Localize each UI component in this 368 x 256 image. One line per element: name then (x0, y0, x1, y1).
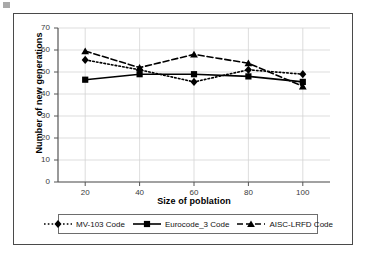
chart-figure: 706050403020100 20406080100 Number of ne… (0, 0, 368, 256)
square-marker (245, 73, 251, 79)
legend-label: Eurocode_3 Code (165, 220, 230, 229)
square-marker (144, 221, 150, 227)
chart-legend: MV-103 CodeEurocode_3 CodeAISC-LRFD Code (58, 214, 318, 234)
diamond-marker (55, 220, 62, 228)
x-axis-title: Size of poblation (58, 196, 330, 206)
legend-label: MV-103 Code (76, 220, 125, 229)
square-marker (137, 71, 143, 77)
legend-swatch (236, 219, 266, 229)
y-tick-label: 0 (34, 177, 50, 186)
square-marker (82, 77, 88, 83)
chart-plot-region: 706050403020100 20406080100 Number of ne… (0, 0, 368, 256)
legend-item: Eurocode_3 Code (132, 219, 230, 229)
legend-label: AISC-LRFD Code (269, 220, 333, 229)
legend-item: MV-103 Code (43, 219, 125, 229)
legend-item: AISC-LRFD Code (236, 219, 333, 229)
legend-swatch (43, 219, 73, 229)
square-marker (191, 71, 197, 77)
y-axis-title: Number of new generations (34, 18, 44, 168)
legend-swatch (132, 219, 162, 229)
